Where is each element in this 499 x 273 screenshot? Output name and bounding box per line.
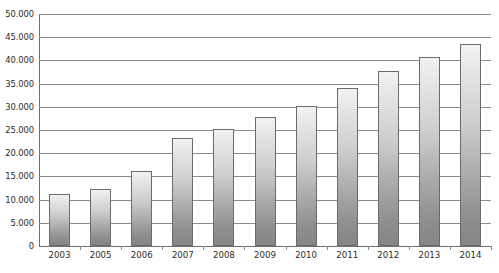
y-axis-tick-label: 5.000 xyxy=(11,218,34,228)
bar-series xyxy=(39,14,491,246)
x-axis-tick-label: 2007 xyxy=(172,250,194,260)
y-axis-labels: 50.00045.00040.00035.00030.00025.00020.0… xyxy=(0,0,38,273)
x-axis-tick xyxy=(244,246,245,250)
x-axis-labels: 2003200520062007200820092010201120122013… xyxy=(39,250,491,270)
x-axis-tick-label: 2013 xyxy=(418,250,440,260)
bar-chart: 50.00045.00040.00035.00030.00025.00020.0… xyxy=(0,0,499,273)
y-axis-tick-label: 20.000 xyxy=(5,148,34,158)
x-axis-tick-label: 2010 xyxy=(295,250,317,260)
bar-slot xyxy=(172,14,193,246)
bar-slot xyxy=(460,14,481,246)
x-axis-tick xyxy=(327,246,328,250)
x-axis-tick-label: 2005 xyxy=(90,250,112,260)
axis-baseline xyxy=(39,246,491,247)
y-axis-tick-label: 45.000 xyxy=(5,32,34,42)
bar-slot xyxy=(419,14,440,246)
bar xyxy=(131,171,152,246)
x-axis-tick xyxy=(368,246,369,250)
x-axis-tick-label: 2003 xyxy=(49,250,71,260)
bar xyxy=(49,194,70,246)
bar-slot xyxy=(49,14,70,246)
y-axis-tick-label: 40.000 xyxy=(5,55,34,65)
y-axis-tick-label: 30.000 xyxy=(5,102,34,112)
x-axis-tick-label: 2014 xyxy=(460,250,482,260)
bar-slot xyxy=(378,14,399,246)
x-axis-tick xyxy=(409,246,410,250)
bar-slot xyxy=(131,14,152,246)
bar xyxy=(255,117,276,246)
x-axis-tick xyxy=(80,246,81,250)
y-axis-tick-label: 15.000 xyxy=(5,171,34,181)
bar-slot xyxy=(255,14,276,246)
x-axis-tick-label: 2006 xyxy=(131,250,153,260)
bar xyxy=(419,57,440,246)
bar xyxy=(337,88,358,246)
x-axis-tick xyxy=(162,246,163,250)
x-axis-tick-label: 2012 xyxy=(377,250,399,260)
y-axis-tick-label: 0 xyxy=(29,241,34,251)
x-axis-tick xyxy=(286,246,287,250)
bar-slot xyxy=(90,14,111,246)
bar xyxy=(378,71,399,246)
x-axis-tick-label: 2009 xyxy=(254,250,276,260)
y-axis-tick-label: 10.000 xyxy=(5,195,34,205)
y-axis-tick-label: 50.000 xyxy=(5,9,34,19)
x-axis-tick-label: 2011 xyxy=(336,250,358,260)
y-axis-tick-label: 35.000 xyxy=(5,79,34,89)
x-axis-tick xyxy=(450,246,451,250)
bar xyxy=(213,129,234,246)
x-axis-tick xyxy=(203,246,204,250)
bar xyxy=(172,138,193,246)
bar xyxy=(460,44,481,246)
bar xyxy=(296,106,317,246)
bar-slot xyxy=(337,14,358,246)
x-axis-tick-label: 2008 xyxy=(213,250,235,260)
x-axis-tick xyxy=(121,246,122,250)
x-axis-tick xyxy=(491,246,492,250)
bar-slot xyxy=(213,14,234,246)
bar-slot xyxy=(296,14,317,246)
y-axis-tick-label: 25.000 xyxy=(5,125,34,135)
bar xyxy=(90,189,111,246)
